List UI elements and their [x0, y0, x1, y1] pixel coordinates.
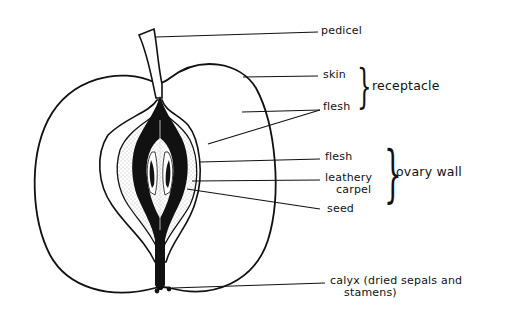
leader-pedicel: [156, 32, 318, 37]
label-calyx-cont: stamens): [344, 287, 397, 299]
label-ovary-wall: ovary wall: [396, 166, 462, 178]
calyx-tip-right: [167, 287, 172, 292]
label-flesh-ovary: flesh: [325, 151, 352, 163]
apple-section-drawing: [0, 0, 511, 321]
calyx-tip-left: [155, 289, 160, 294]
label-seed: seed: [327, 203, 354, 215]
label-carpel: carpel: [336, 184, 371, 196]
label-receptacle: receptacle: [372, 80, 440, 92]
label-skin: skin: [323, 69, 346, 81]
leader-skin: [243, 76, 318, 77]
receptacle-brace: }: [357, 63, 372, 109]
label-flesh-receptacle: flesh: [323, 101, 350, 113]
label-pedicel: pedicel: [321, 25, 362, 37]
